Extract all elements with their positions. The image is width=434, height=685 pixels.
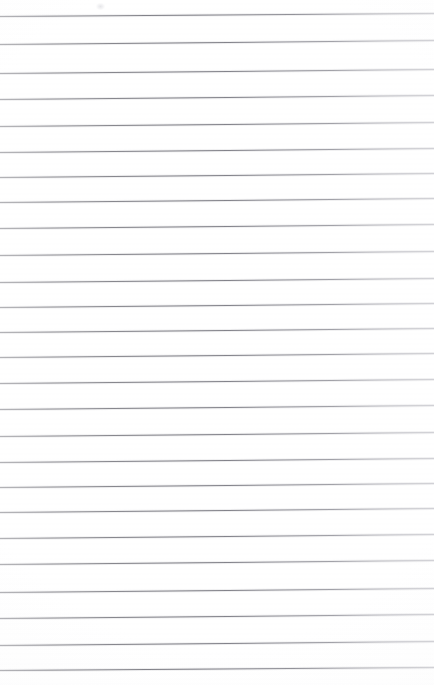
writing-area: [0, 0, 434, 685]
scanned-paper-page: [0, 0, 434, 685]
